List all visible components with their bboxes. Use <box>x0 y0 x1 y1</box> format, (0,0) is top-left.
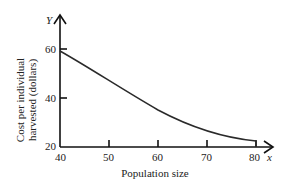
y-axis-symbol: Y <box>46 14 54 26</box>
x-tick-label-60: 60 <box>152 151 164 163</box>
y-axis-label-line-1: Cost per individual <box>14 45 26 155</box>
x-axis-label: Population size <box>0 167 294 179</box>
y-ticks <box>60 49 67 98</box>
x-ticks <box>109 140 256 147</box>
x-tick-label-70: 70 <box>201 151 213 163</box>
cost-vs-population-chart: 60 40 20 40 50 60 70 80 Y x <box>0 0 294 187</box>
y-axis-label-line-2: harvested (dollars) <box>26 45 38 155</box>
y-tick-label-40: 40 <box>45 92 57 104</box>
x-tick-label-40: 40 <box>55 151 67 163</box>
y-tick-label-60: 60 <box>45 43 57 55</box>
x-axis-symbol: x <box>266 151 272 163</box>
x-tick-label-80: 80 <box>249 151 261 163</box>
cost-curve <box>60 51 256 141</box>
x-tick-label-50: 50 <box>103 151 115 163</box>
